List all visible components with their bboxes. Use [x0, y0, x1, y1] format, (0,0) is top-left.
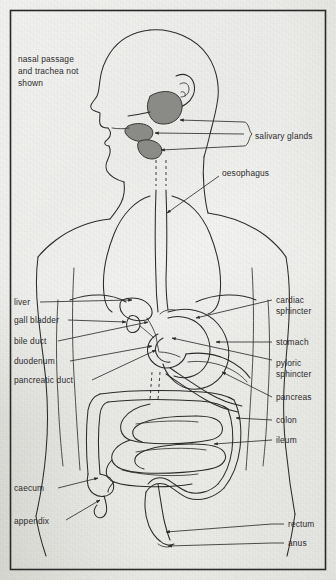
note-line-2: and trachea not — [18, 66, 79, 76]
label-stomach: stomach — [276, 337, 309, 347]
label-pancreatic-duct: pancreatic duct — [14, 375, 74, 385]
label-duodenum: duodenum — [14, 356, 55, 366]
caecum-appendix-organ — [87, 474, 113, 518]
digestive-system-figure: .ink{fill:none;stroke:#2b2b2b;stroke-wid… — [0, 0, 336, 580]
oesophagus-organ — [155, 160, 168, 312]
label-oesophagus: oesophagus — [222, 168, 269, 178]
label-gall-bladder: gall bladder — [14, 315, 59, 325]
label-liver: liver — [14, 297, 30, 307]
colon-organ — [87, 391, 241, 500]
salivary-glands-organ — [112, 92, 182, 160]
label-salivary-glands: salivary glands — [255, 131, 313, 141]
note-line-1: nasal passage — [18, 54, 74, 64]
label-bile-duct: bile duct — [14, 336, 47, 346]
note-line-3: shown — [18, 78, 43, 88]
leader-lines — [40, 120, 284, 546]
label-colon: colon — [276, 415, 297, 425]
label-cardiac-sphincter-line1: cardiac — [276, 295, 304, 305]
label-anus: anus — [288, 538, 307, 548]
lungs — [103, 196, 220, 314]
rectum-anus-organ — [145, 484, 174, 547]
label-ileum: ileum — [276, 435, 297, 445]
label-rectum: rectum — [288, 519, 315, 529]
liver-gall-bladder — [120, 298, 156, 338]
label-pyloric-sphincter-line2: sphincter — [276, 369, 311, 379]
label-appendix: appendix — [14, 516, 50, 526]
label-caecum: caecum — [14, 483, 44, 493]
salivary-brace — [244, 122, 252, 146]
label-pyloric-sphincter-line1: pyloric — [276, 358, 301, 368]
label-pancreas: pancreas — [276, 392, 312, 402]
diaphragm-right — [196, 295, 256, 302]
label-cardiac-sphincter-line2: sphincter — [276, 306, 311, 316]
